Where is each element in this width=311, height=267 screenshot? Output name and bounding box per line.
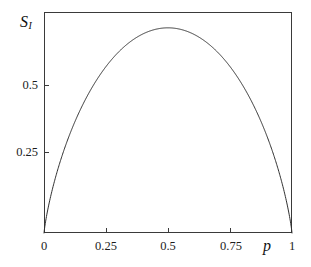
- entropy-figure: SI 0.5 0.25 0 0.25 0.5 0.75 1 p: [0, 0, 311, 267]
- x-tick-label-0: 0: [34, 240, 54, 253]
- x-tick-label-0.25: 0.25: [87, 240, 125, 253]
- y-tick-label-0.25: 0.25: [0, 146, 38, 159]
- entropy-curve-path: [44, 28, 292, 233]
- y-axis-label: SI: [20, 14, 31, 30]
- entropy-curve-plot: [44, 12, 293, 234]
- x-tick-label-0.75: 0.75: [212, 240, 250, 253]
- x-tick-mark-0.75: [230, 228, 231, 233]
- y-axis-label-subscript: I: [29, 20, 32, 31]
- y-tick-label-0.5: 0.5: [4, 79, 38, 92]
- x-tick-mark-0.25: [106, 228, 107, 233]
- x-tick-mark-0.5: [168, 228, 169, 233]
- x-tick-label-0.5: 0.5: [152, 240, 184, 253]
- y-axis-label-base: S: [20, 13, 28, 30]
- x-tick-label-1: 1: [285, 240, 299, 253]
- y-tick-mark-0.5: [44, 85, 49, 86]
- x-axis-label: p: [263, 238, 271, 254]
- y-tick-mark-0.25: [44, 152, 49, 153]
